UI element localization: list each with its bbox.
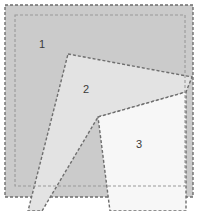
diagram-canvas: 1 2 3 — [0, 0, 198, 211]
region-label-3: 3 — [136, 138, 142, 150]
region-label-1: 1 — [39, 38, 45, 50]
region-overlay-svg: 1 2 3 — [0, 0, 198, 211]
region-label-2: 2 — [83, 83, 89, 95]
